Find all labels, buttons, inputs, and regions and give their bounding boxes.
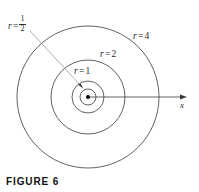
origin-dot	[86, 95, 90, 99]
label-r-two-value: 2	[111, 49, 116, 59]
fraction-one-half: 12	[19, 15, 25, 33]
fraction-denominator: 2	[19, 25, 25, 33]
fraction-numerator: 1	[19, 15, 25, 23]
figure-caption: FIGURE 6	[6, 176, 59, 187]
x-axis-label: x	[180, 101, 184, 110]
label-r-one-half-equals: =	[12, 21, 20, 31]
label-r-one: r=1	[74, 67, 90, 77]
label-r-one-half: r=12	[8, 16, 26, 34]
label-r-one-value: 1	[85, 66, 90, 76]
label-r-two: r=2	[100, 50, 116, 60]
polar-diagram	[0, 0, 199, 192]
x-axis-arrowhead	[180, 94, 187, 99]
label-r-four: r=4	[133, 32, 149, 42]
label-r-four-value: 4	[144, 31, 149, 41]
figure-container: r=12 r=4 r=2 r=1 x FIGURE 6	[0, 0, 199, 192]
